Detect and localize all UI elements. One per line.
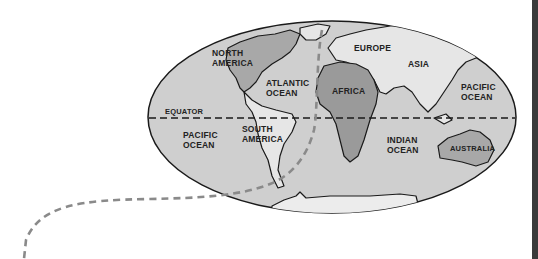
label-pacific-east: PACIFICOCEAN: [461, 83, 496, 102]
label-north-america: NORTHAMERICA: [212, 49, 253, 68]
side-bar: [532, 0, 538, 259]
label-north-america-line2: AMERICA: [212, 59, 253, 69]
label-africa: AFRICA: [332, 87, 365, 97]
label-indian-ocean: INDIANOCEAN: [387, 136, 419, 155]
label-pacific-west: PACIFICOCEAN: [183, 131, 218, 150]
label-atlantic-ocean: ATLANTICOCEAN: [266, 79, 309, 98]
label-indian-line2: OCEAN: [387, 146, 419, 156]
label-equator: EQUATOR: [165, 107, 203, 117]
label-pacific-west-line2: OCEAN: [183, 141, 218, 151]
label-south-america: SOUTHAMERICA: [242, 125, 283, 144]
label-pacific-east-line2: OCEAN: [461, 93, 496, 103]
label-south-america-line2: AMERICA: [242, 135, 283, 145]
label-atlantic-line2: OCEAN: [266, 89, 309, 99]
label-europe: EUROPE: [354, 44, 391, 54]
label-australia: AUSTRALIA: [450, 144, 495, 154]
label-asia: ASIA: [408, 60, 429, 70]
